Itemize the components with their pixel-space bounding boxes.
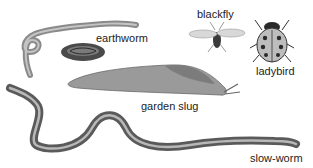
garden-slug-illustration (68, 65, 240, 95)
blackfly-illustration (189, 22, 245, 52)
slow-worm-label: slow-worm (250, 153, 303, 164)
slow-worm-illustration (10, 88, 296, 149)
earthworm-cast-illustration (61, 43, 105, 61)
earthworm-label: earthworm (96, 33, 148, 44)
illustration-art (0, 0, 313, 168)
ladybird-illustration (250, 20, 294, 62)
ladybird-label: ladybird (256, 66, 295, 77)
blackfly-label: blackfly (197, 9, 234, 20)
creatures-illustration: earthworm blackfly ladybird garden slug … (0, 0, 313, 168)
garden-slug-label: garden slug (141, 101, 199, 112)
